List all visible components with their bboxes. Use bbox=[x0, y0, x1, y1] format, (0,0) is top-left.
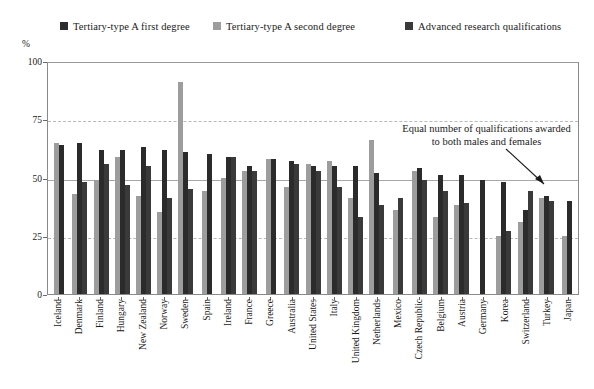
x-axis-label: Mexico bbox=[393, 299, 403, 328]
x-axis-label-cell: Czech Republic bbox=[409, 297, 430, 389]
x-axis-label-cell: Denmark bbox=[68, 297, 89, 389]
x-axis-label-cell: Japan bbox=[558, 297, 579, 389]
x-axis-label: Switzerland bbox=[521, 299, 531, 344]
square-swatch-icon bbox=[213, 22, 221, 30]
x-axis-label: United States bbox=[308, 299, 318, 350]
bar bbox=[443, 191, 448, 294]
x-axis-label: Czech Republic bbox=[414, 299, 424, 359]
x-axis-label: Greece bbox=[265, 299, 275, 326]
bar bbox=[567, 201, 572, 294]
y-tick-mark-100 bbox=[43, 62, 47, 63]
bar bbox=[398, 198, 403, 294]
legend-item-label: Tertiary-type A second degree bbox=[226, 21, 355, 32]
bar-group bbox=[472, 63, 493, 294]
annotation-line-2: to both males and females bbox=[384, 135, 589, 148]
x-axis-label-cell: United States bbox=[302, 297, 323, 389]
x-axis-label-cell: Turkey bbox=[536, 297, 557, 389]
legend-item-1[interactable]: Tertiary-type A second degree bbox=[213, 21, 355, 32]
bar-group bbox=[90, 63, 111, 294]
x-axis-label: Italy bbox=[329, 299, 339, 316]
y-tick-label-0: 0 bbox=[0, 290, 42, 300]
x-axis-label-cell: Netherlands bbox=[366, 297, 387, 389]
bar-group bbox=[196, 63, 217, 294]
y-axis-unit-label: % bbox=[22, 39, 30, 49]
x-axis-label-cell: Ireland bbox=[217, 297, 238, 389]
x-axis-label: Belgium bbox=[436, 299, 446, 332]
legend-item-0[interactable]: Tertiary-type A first degree bbox=[60, 21, 190, 32]
x-axis-label-cell: Switzerland bbox=[515, 297, 536, 389]
bar-group bbox=[387, 63, 408, 294]
annotation-text: Equal number of qualifications awarded t… bbox=[384, 122, 589, 148]
y-tick-mark-0 bbox=[43, 295, 47, 296]
x-axis-label: Australia bbox=[287, 299, 297, 334]
bar-group bbox=[408, 63, 429, 294]
x-axis-label-cell: Hungary bbox=[111, 297, 132, 389]
x-axis-label: Japan bbox=[563, 299, 573, 321]
bar-group bbox=[260, 63, 281, 294]
bar-group bbox=[239, 63, 260, 294]
bar bbox=[271, 159, 276, 294]
bar bbox=[337, 187, 342, 294]
x-axis-label-cell: Italy bbox=[324, 297, 345, 389]
x-axis-label-cell: France bbox=[239, 297, 260, 389]
x-axis-label-cell: Belgium bbox=[430, 297, 451, 389]
y-tick-mark-25 bbox=[43, 237, 47, 238]
legend-item-2[interactable]: Advanced research qualifications bbox=[405, 21, 561, 32]
y-tick-label-50: 50 bbox=[0, 174, 42, 184]
bar bbox=[82, 182, 87, 294]
bar bbox=[231, 157, 236, 294]
x-axis-label: Norway bbox=[159, 299, 169, 330]
x-axis-label-cell: Australia bbox=[281, 297, 302, 389]
y-tick-label-25: 25 bbox=[0, 232, 42, 242]
y-tick-mark-50 bbox=[43, 179, 47, 180]
bar-group bbox=[302, 63, 323, 294]
bar bbox=[146, 166, 151, 294]
bar bbox=[207, 154, 212, 294]
x-axis-label: France bbox=[244, 299, 254, 325]
x-axis-label-cell: New Zealand bbox=[132, 297, 153, 389]
bar bbox=[59, 145, 64, 294]
y-tick-mark-75 bbox=[43, 120, 47, 121]
bar-group bbox=[69, 63, 90, 294]
x-axis-label: Hungary bbox=[116, 299, 126, 332]
x-axis-label: United Kingdom bbox=[351, 299, 361, 363]
x-axis-label-cell: Korea bbox=[494, 297, 515, 389]
square-swatch-icon bbox=[405, 22, 413, 30]
bar-group bbox=[218, 63, 239, 294]
bar-group bbox=[366, 63, 387, 294]
x-axis-label: Finland bbox=[95, 299, 105, 328]
annotation-line-1: Equal number of qualifications awarded bbox=[384, 122, 589, 135]
chart-figure: Tertiary-type A first degreeTertiary-typ… bbox=[0, 0, 594, 389]
bar-group bbox=[281, 63, 302, 294]
legend-item-label: Tertiary-type A first degree bbox=[73, 21, 190, 32]
x-axis-label: Spain bbox=[202, 299, 212, 321]
bar-group bbox=[430, 63, 451, 294]
x-axis-label: Korea bbox=[500, 299, 510, 322]
x-axis-labels: IcelandDenmarkFinlandHungaryNew ZealandN… bbox=[47, 297, 579, 389]
bar bbox=[528, 191, 533, 294]
bar bbox=[358, 217, 363, 294]
bar bbox=[125, 185, 130, 295]
x-axis-label: Ireland bbox=[223, 299, 233, 326]
bar bbox=[480, 180, 485, 294]
bar-group bbox=[324, 63, 345, 294]
x-axis-label: New Zealand bbox=[138, 299, 148, 350]
bar bbox=[379, 205, 384, 294]
bar-group bbox=[175, 63, 196, 294]
bar-group bbox=[133, 63, 154, 294]
bar bbox=[464, 203, 469, 294]
x-axis-label: Turkey bbox=[542, 299, 552, 326]
x-axis-label-cell: Iceland bbox=[47, 297, 68, 389]
x-axis-label: Iceland bbox=[53, 299, 63, 327]
bar bbox=[167, 198, 172, 294]
x-axis-label: Germany bbox=[478, 299, 488, 334]
x-axis-label: Sweden bbox=[180, 299, 190, 329]
x-axis-label: Denmark bbox=[74, 299, 84, 334]
x-axis-label-cell: Austria bbox=[451, 297, 472, 389]
bar-group bbox=[112, 63, 133, 294]
bar bbox=[104, 164, 109, 294]
bar bbox=[294, 164, 299, 294]
y-tick-label-75: 75 bbox=[0, 115, 42, 125]
bar-group bbox=[345, 63, 366, 294]
square-swatch-icon bbox=[60, 22, 68, 30]
